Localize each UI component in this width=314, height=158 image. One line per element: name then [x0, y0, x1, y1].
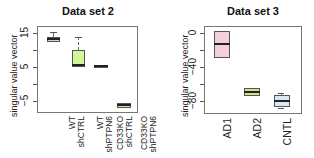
y-tick-label: 5	[19, 60, 30, 74]
chart-panel-data-set-2: Data set 2 singular value vector 15 5 −5…	[0, 0, 160, 158]
whisker-cap	[75, 37, 82, 38]
median-line	[274, 100, 290, 102]
x-tick-label: WT shPTPN6	[96, 116, 114, 158]
y-tick	[33, 33, 37, 34]
whisker	[78, 37, 79, 50]
median-line	[214, 43, 230, 45]
median-line	[72, 64, 85, 66]
median-line	[94, 65, 108, 67]
median-line	[47, 38, 60, 40]
x-tick-label: CNTL	[282, 118, 293, 156]
y-tick	[200, 50, 204, 51]
y-tick	[33, 50, 37, 51]
y-tick-label: 0	[187, 27, 198, 39]
y-tick	[33, 84, 37, 85]
x-tick-label: CD33KO shCTRL	[116, 116, 134, 156]
x-tick-label: WT shCTRL	[68, 116, 86, 154]
chart-title: Data set 3	[227, 5, 279, 17]
y-tick-label: 15	[19, 26, 30, 40]
y-tick	[200, 101, 204, 102]
median-line	[244, 91, 260, 93]
y-tick	[200, 33, 204, 34]
y-tick	[200, 84, 204, 85]
median-line	[117, 104, 131, 106]
chart-title: Data set 2	[62, 5, 114, 17]
whisker-cap	[278, 108, 284, 109]
y-tick-label: −40	[187, 55, 198, 79]
y-tick	[200, 67, 204, 68]
y-tick	[33, 67, 37, 68]
x-tick-label: AD2	[252, 118, 263, 156]
x-tick-label: CD33KO shPTPN6	[140, 116, 158, 158]
y-axis-label: singular value vector	[9, 34, 19, 117]
x-label-line: shCTRL	[77, 116, 86, 154]
y-tick-label: −80	[187, 89, 198, 113]
x-label-line: shCTRL	[125, 116, 134, 156]
y-tick-label: −5	[19, 93, 30, 109]
whisker-cap	[50, 32, 57, 33]
x-label-line: shPTPN6	[149, 116, 158, 158]
x-label-line: shPTPN6	[105, 116, 114, 158]
y-tick	[33, 101, 37, 102]
x-tick-label: AD1	[222, 118, 233, 156]
chart-panel-data-set-3: Data set 3 singular value vector 0 −40 −…	[160, 0, 314, 158]
